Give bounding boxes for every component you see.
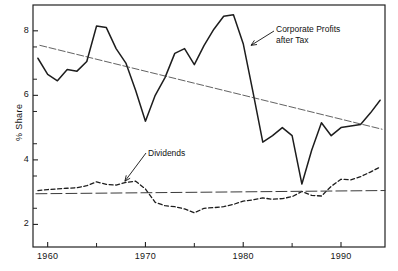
corporate-profits-annotation-line2: after Tax <box>276 35 308 45</box>
corporate-profits-annotation-line1: Corporate Profits <box>276 24 340 34</box>
y-axis-label: % Share <box>14 103 24 140</box>
corporate-profits-annotation-leader <box>251 31 274 45</box>
x-tick-label: 1970 <box>133 251 157 261</box>
y-tick-label: 2 <box>18 218 29 228</box>
x-tick-label: 1960 <box>36 251 60 261</box>
dividends-annotation: Dividends <box>148 148 185 159</box>
series-trend-thin <box>40 45 382 129</box>
dividends-annotation-leader <box>125 153 146 181</box>
x-tick-label: 1990 <box>329 251 353 261</box>
y-tick-label: 4 <box>18 154 29 164</box>
y-tick-label: 6 <box>18 89 29 99</box>
series-dashed <box>38 167 380 213</box>
dividends-annotation-line1: Dividends <box>148 148 185 158</box>
y-tick-label: 8 <box>18 25 29 35</box>
x-tick-label: 1980 <box>231 251 255 261</box>
corporate-profits-annotation-arrowhead <box>251 40 257 45</box>
series-trend-longdash <box>36 191 385 194</box>
corporate-profits-annotation: Corporate Profits after Tax <box>276 24 340 46</box>
